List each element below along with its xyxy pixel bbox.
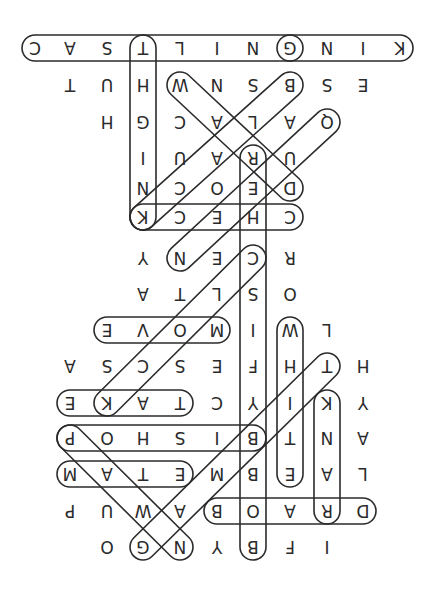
grid-letter[interactable]: W <box>168 73 192 97</box>
grid-letter[interactable]: T <box>278 426 302 450</box>
grid-letter[interactable]: L <box>351 462 375 486</box>
grid-letter[interactable]: L <box>205 282 229 306</box>
grid-letter[interactable]: T <box>168 282 192 306</box>
grid-letter[interactable]: C <box>168 205 192 229</box>
grid-letter[interactable]: W <box>278 318 302 342</box>
grid-letter[interactable]: Q <box>315 110 339 134</box>
grid-letter[interactable]: B <box>241 426 265 450</box>
grid-letter[interactable]: A <box>205 146 229 170</box>
grid-letter[interactable]: I <box>278 391 302 415</box>
grid-letter[interactable]: T <box>168 391 192 415</box>
grid-letter[interactable]: R <box>315 499 339 523</box>
grid-letter[interactable]: D <box>351 499 375 523</box>
grid-letter[interactable]: O <box>95 535 119 559</box>
grid-letter[interactable]: H <box>351 354 375 378</box>
grid-letter[interactable]: I <box>315 535 339 559</box>
grid-letter[interactable]: C <box>168 110 192 134</box>
grid-letter[interactable]: C <box>131 354 155 378</box>
grid-letter[interactable]: C <box>241 246 265 270</box>
grid-letter[interactable]: S <box>315 73 339 97</box>
grid-letter[interactable]: E <box>95 318 119 342</box>
grid-letter[interactable]: I <box>205 36 229 60</box>
grid-letter[interactable]: C <box>278 205 302 229</box>
grid-letter[interactable]: S <box>95 354 119 378</box>
grid-letter[interactable]: T <box>58 73 82 97</box>
grid-letter[interactable]: K <box>131 205 155 229</box>
grid-letter[interactable]: U <box>278 146 302 170</box>
grid-letter[interactable]: R <box>241 146 265 170</box>
grid-letter[interactable]: E <box>351 73 375 97</box>
grid-letter[interactable]: M <box>205 462 229 486</box>
grid-letter[interactable]: N <box>315 36 339 60</box>
grid-letter[interactable]: T <box>315 354 339 378</box>
grid-letter[interactable]: C <box>168 176 192 200</box>
grid-letter[interactable]: S <box>168 426 192 450</box>
grid-letter[interactable]: P <box>58 499 82 523</box>
grid-letter[interactable]: N <box>205 73 229 97</box>
grid-letter[interactable]: E <box>205 246 229 270</box>
grid-letter[interactable]: N <box>315 426 339 450</box>
grid-letter[interactable]: U <box>168 146 192 170</box>
grid-letter[interactable]: B <box>278 73 302 97</box>
grid-letter[interactable]: O <box>205 176 229 200</box>
grid-letter[interactable]: Y <box>205 535 229 559</box>
grid-letter[interactable]: B <box>241 462 265 486</box>
grid-letter[interactable]: O <box>168 318 192 342</box>
grid-letter[interactable]: H <box>95 110 119 134</box>
grid-letter[interactable]: I <box>131 146 155 170</box>
grid-letter[interactable]: O <box>278 282 302 306</box>
grid-letter[interactable]: B <box>241 535 265 559</box>
grid-letter[interactable]: N <box>131 176 155 200</box>
grid-letter[interactable]: I <box>351 36 375 60</box>
grid-letter[interactable]: Y <box>241 391 265 415</box>
grid-letter[interactable]: B <box>205 499 229 523</box>
grid-letter[interactable]: A <box>278 499 302 523</box>
grid-letter[interactable]: O <box>241 499 265 523</box>
grid-letter[interactable]: R <box>278 246 302 270</box>
grid-letter[interactable]: K <box>95 391 119 415</box>
grid-letter[interactable]: H <box>131 73 155 97</box>
grid-letter[interactable]: P <box>58 426 82 450</box>
grid-letter[interactable]: H <box>241 205 265 229</box>
grid-letter[interactable]: T <box>131 36 155 60</box>
grid-letter[interactable]: H <box>131 426 155 450</box>
grid-letter[interactable]: A <box>315 462 339 486</box>
grid-letter[interactable]: A <box>58 36 82 60</box>
grid-letter[interactable]: A <box>131 391 155 415</box>
grid-letter[interactable]: E <box>58 391 82 415</box>
grid-letter[interactable]: L <box>315 318 339 342</box>
grid-letter[interactable]: K <box>315 391 339 415</box>
grid-letter[interactable]: A <box>168 499 192 523</box>
grid-letter[interactable]: S <box>241 73 265 97</box>
grid-letter[interactable]: C <box>205 391 229 415</box>
grid-letter[interactable]: N <box>168 535 192 559</box>
grid-letter[interactable]: I <box>205 426 229 450</box>
grid-letter[interactable]: E <box>205 205 229 229</box>
grid-letter[interactable]: C <box>23 36 47 60</box>
grid-letter[interactable]: S <box>95 36 119 60</box>
grid-letter[interactable]: L <box>168 36 192 60</box>
grid-letter[interactable]: N <box>241 36 265 60</box>
grid-letter[interactable]: N <box>168 246 192 270</box>
grid-letter[interactable]: U <box>95 499 119 523</box>
grid-letter[interactable]: M <box>205 318 229 342</box>
grid-letter[interactable]: E <box>168 462 192 486</box>
grid-letter[interactable]: A <box>278 110 302 134</box>
grid-letter[interactable]: K <box>388 36 412 60</box>
grid-letter[interactable]: A <box>205 110 229 134</box>
grid-letter[interactable]: H <box>278 354 302 378</box>
grid-letter[interactable]: D <box>278 176 302 200</box>
grid-letter[interactable]: I <box>241 318 265 342</box>
grid-letter[interactable]: F <box>278 535 302 559</box>
grid-letter[interactable]: S <box>241 282 265 306</box>
grid-letter[interactable]: M <box>58 462 82 486</box>
grid-letter[interactable]: U <box>95 73 119 97</box>
grid-letter[interactable]: G <box>131 110 155 134</box>
grid-letter[interactable]: G <box>278 36 302 60</box>
grid-letter[interactable]: L <box>241 110 265 134</box>
grid-letter[interactable]: S <box>168 354 192 378</box>
grid-letter[interactable]: W <box>131 499 155 523</box>
grid-letter[interactable]: G <box>131 535 155 559</box>
grid-letter[interactable]: V <box>131 318 155 342</box>
grid-letter[interactable]: A <box>58 354 82 378</box>
